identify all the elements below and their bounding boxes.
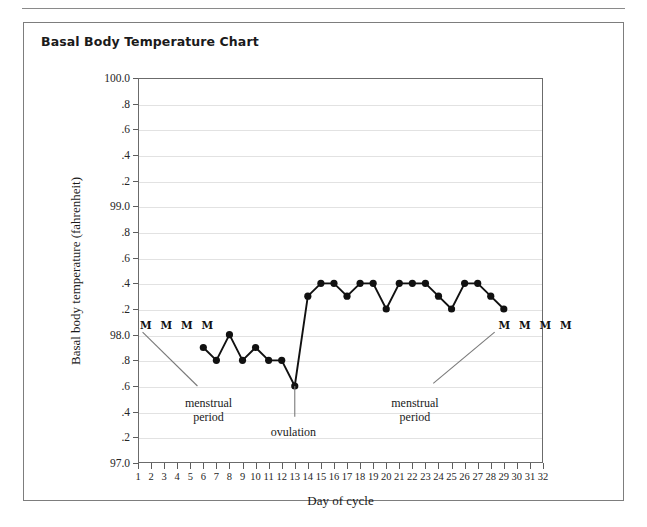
x-axis-tick-mark	[243, 463, 244, 469]
x-axis-tick-mark	[177, 463, 178, 469]
x-axis-tick-label: 19	[368, 471, 379, 482]
x-axis-tick-label: 15	[316, 471, 327, 482]
x-axis-tick-label: 12	[276, 471, 287, 482]
figure-container: Basal Body Temperature Chart Basal body …	[23, 22, 624, 501]
x-axis-tick-label: 27	[472, 471, 483, 482]
x-axis-tick-mark	[269, 463, 270, 469]
data-point	[500, 305, 507, 312]
data-point	[461, 280, 468, 287]
data-point	[396, 280, 403, 287]
x-axis-tick-mark	[465, 463, 466, 469]
data-point	[330, 280, 337, 287]
x-axis-tick-mark	[373, 463, 374, 469]
x-axis-tick-label: 9	[240, 471, 245, 482]
data-point	[383, 305, 390, 312]
x-axis-tick-mark	[347, 463, 348, 469]
x-axis-tick-mark	[216, 463, 217, 469]
annotation-line-2: period	[193, 410, 224, 424]
series-line	[203, 283, 503, 386]
x-axis-tick-label: 3	[162, 471, 167, 482]
x-axis-tick-label: 31	[525, 471, 536, 482]
data-point	[357, 280, 364, 287]
data-point	[317, 280, 324, 287]
data-point	[239, 357, 246, 364]
x-axis-tick-mark	[425, 463, 426, 469]
x-axis-tick-mark	[386, 463, 387, 469]
data-point	[278, 357, 285, 364]
menstrual-marker-start: M M M M	[140, 319, 216, 331]
chart-canvas: Basal body temperature (fahrenheit) 97.0…	[24, 23, 625, 502]
x-axis-tick-mark	[164, 463, 165, 469]
x-axis-tick-mark	[295, 463, 296, 469]
x-axis-tick-label: 18	[355, 471, 366, 482]
x-axis-tick-mark	[412, 463, 413, 469]
x-axis-tick-mark	[203, 463, 204, 469]
x-axis-tick-label: 17	[342, 471, 353, 482]
x-axis-tick-mark	[282, 463, 283, 469]
x-axis-tick-label: 25	[446, 471, 457, 482]
x-axis-tick-mark	[543, 463, 544, 469]
data-point	[213, 357, 220, 364]
data-point	[265, 357, 272, 364]
x-axis-tick-label: 16	[329, 471, 340, 482]
x-axis-tick-label: 29	[499, 471, 510, 482]
x-axis-tick-label: 21	[394, 471, 405, 482]
annotation-line-1: ovulation	[271, 425, 316, 439]
x-axis-tick-label: 30	[512, 471, 523, 482]
x-axis-tick-mark	[360, 463, 361, 469]
x-axis-tick-label: 10	[250, 471, 261, 482]
x-axis-tick-mark	[530, 463, 531, 469]
data-point	[435, 293, 442, 300]
data-point	[304, 293, 311, 300]
data-point	[370, 280, 377, 287]
x-axis-tick-label: 14	[303, 471, 314, 482]
data-point	[226, 331, 233, 338]
x-axis-tick-label: 20	[381, 471, 392, 482]
x-axis-tick-label: 2	[148, 471, 153, 482]
annotation-line-2: period	[400, 410, 431, 424]
x-axis-tick-mark	[478, 463, 479, 469]
data-point	[487, 293, 494, 300]
data-point	[291, 382, 298, 389]
annotation-line-1: menstrual	[185, 396, 232, 410]
x-axis-tick-label: 7	[214, 471, 219, 482]
annotation-line-1: menstrual	[391, 396, 438, 410]
x-axis-tick-label: 11	[264, 471, 274, 482]
data-point	[200, 344, 207, 351]
x-axis-tick-mark	[491, 463, 492, 469]
x-axis-tick-mark	[256, 463, 257, 469]
x-axis-tick-label: 4	[175, 471, 180, 482]
annotation-menstrual-period-start: menstrual period	[185, 396, 232, 424]
x-axis-tick-mark	[229, 463, 230, 469]
x-axis-tick-mark	[438, 463, 439, 469]
x-axis-title: Day of cycle	[307, 493, 373, 509]
x-axis-tick-mark	[452, 463, 453, 469]
x-axis-tick-label: 1	[135, 471, 140, 482]
data-point	[409, 280, 416, 287]
x-axis-tick-label: 5	[188, 471, 193, 482]
x-axis-tick-label: 28	[485, 471, 496, 482]
x-axis-tick-mark	[151, 463, 152, 469]
x-axis-tick-mark	[190, 463, 191, 469]
annotation-menstrual-period-next: menstrual period	[391, 396, 438, 424]
x-axis-tick-mark	[504, 463, 505, 469]
data-point	[422, 280, 429, 287]
data-point	[474, 280, 481, 287]
x-axis-tick-label: 22	[407, 471, 418, 482]
x-axis-tick-mark	[308, 463, 309, 469]
menstrual-marker-next: M M M M	[499, 319, 575, 331]
x-axis-tick-mark	[517, 463, 518, 469]
x-axis-tick-mark	[138, 463, 139, 469]
annotation-ovulation: ovulation	[271, 425, 316, 439]
x-axis-tick-label: 13	[290, 471, 301, 482]
x-axis-tick-label: 24	[433, 471, 444, 482]
data-point	[448, 305, 455, 312]
x-axis-tick-mark	[321, 463, 322, 469]
x-axis-tick-label: 26	[459, 471, 470, 482]
data-series-layer	[24, 23, 625, 502]
page-root: Basal Body Temperature Chart Basal body …	[0, 0, 647, 527]
x-axis-tick-label: 32	[538, 471, 549, 482]
x-axis-tick-label: 23	[420, 471, 431, 482]
x-axis-tick-mark	[399, 463, 400, 469]
x-axis-tick-label: 6	[201, 471, 206, 482]
